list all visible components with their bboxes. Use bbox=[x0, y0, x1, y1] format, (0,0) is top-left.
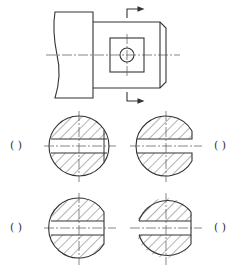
engineering-drawing bbox=[0, 0, 248, 271]
option-b-answer-blank[interactable]: ( ) bbox=[214, 139, 226, 152]
option-d-answer-blank[interactable]: ( ) bbox=[214, 221, 226, 234]
option-a-section bbox=[44, 111, 116, 182]
option-b-section bbox=[130, 111, 204, 182]
option-c-section bbox=[44, 193, 116, 265]
option-d-section bbox=[130, 193, 202, 265]
option-a-answer-blank[interactable]: ( ) bbox=[10, 139, 22, 152]
option-c-answer-blank[interactable]: ( ) bbox=[10, 221, 22, 234]
